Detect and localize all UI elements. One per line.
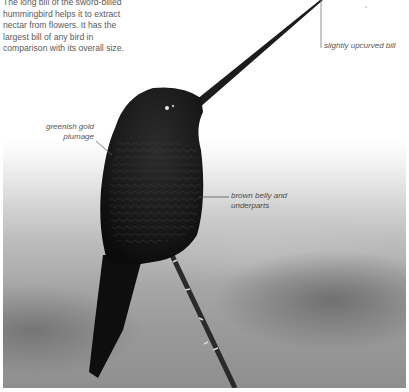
eye — [165, 106, 169, 110]
intro-paragraph: The long bill of the sword-billed hummin… — [3, 0, 128, 55]
hummingbird-illustration — [3, 0, 406, 388]
bill — [191, 0, 323, 108]
belly-callout-label: brown belly and underparts — [231, 191, 321, 210]
plumage-callout-label: greenish gold plumage — [20, 122, 94, 141]
hummingbird-photo — [3, 0, 406, 388]
bill-callout-label: slightly upcurved bill — [324, 41, 404, 51]
tail — [89, 255, 143, 378]
